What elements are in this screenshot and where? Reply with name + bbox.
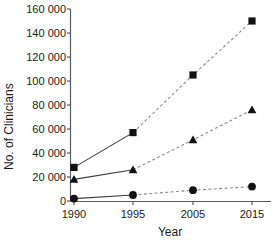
x-tick-label-2015: 2015 (240, 208, 264, 220)
line-chart: No. of Clinicians 160 000 140 000 120 00… (0, 0, 279, 241)
y-tick-label-0: 0 (60, 195, 66, 207)
x-tick-label-1990: 1990 (62, 208, 86, 220)
y-tick-label-40000: 40 000 (32, 147, 66, 159)
x-tick-label-2005: 2005 (181, 208, 205, 220)
y-tick-label-120000: 120 000 (26, 51, 66, 63)
series-circle-marker-2005 (189, 186, 197, 194)
y-tick-label-60000: 60 000 (32, 123, 66, 135)
series-square-marker-2005 (189, 71, 196, 78)
y-axis-title: No. of Clinicians (2, 83, 16, 170)
series-triangle-solid-segment (74, 170, 133, 180)
series-circle-solid-segment (74, 195, 133, 199)
y-tick-label-100000: 100 000 (26, 75, 66, 87)
series-square-marker-1995 (129, 129, 136, 136)
x-axis-title: Year (158, 225, 182, 239)
series-circle-marker-1990 (70, 195, 78, 203)
series-triangle-marker-1995 (129, 165, 138, 173)
series-square-marker-2015 (248, 17, 255, 24)
series-square-marker-1990 (70, 164, 77, 171)
series-triangle-marker-2005 (189, 135, 198, 143)
series-triangle-marker-2015 (248, 105, 257, 113)
chart-container: No. of Clinicians 160 000 140 000 120 00… (0, 0, 279, 241)
series-circle-marker-2015 (248, 183, 256, 191)
series-circle-marker-1995 (129, 191, 137, 199)
y-tick-label-140000: 140 000 (26, 27, 66, 39)
y-tick-label-80000: 80 000 (32, 99, 66, 111)
series-layer (70, 17, 257, 202)
series-square-solid-segment (74, 133, 133, 168)
x-tick-label-1995: 1995 (121, 208, 145, 220)
y-tick-label-20000: 20 000 (32, 171, 66, 183)
y-tick-label-160000: 160 000 (26, 3, 66, 15)
